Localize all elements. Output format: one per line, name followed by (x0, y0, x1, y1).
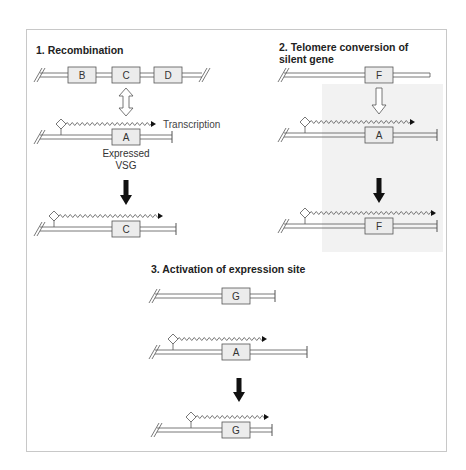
transcript-arrowhead-icon (151, 121, 156, 127)
gene-label: A (376, 130, 383, 141)
gene-label: C (122, 70, 129, 81)
gene-label: D (164, 70, 171, 81)
break-slash-icon (149, 345, 160, 359)
promoter-diamond-icon (56, 119, 66, 129)
gene-label: G (232, 425, 240, 436)
transcription-label: Transcription (163, 119, 220, 130)
transcript-wave (59, 215, 159, 218)
transcript-wave (178, 338, 263, 341)
break-slash-icon (149, 289, 160, 303)
promoter-diamond-icon (49, 211, 59, 221)
break-slash-icon (199, 68, 210, 82)
promoter-diamond-icon (168, 334, 178, 344)
gene-label: C (122, 224, 129, 235)
gene-label: F (376, 70, 382, 81)
gene-label: G (232, 291, 240, 302)
promoter-diamond-icon (300, 208, 310, 218)
down-arrow-icon (233, 392, 245, 402)
panel2-title-line2: silent gene (279, 53, 334, 65)
diagram: 1. Recombination 2. Telomere conversion … (0, 0, 466, 470)
break-slash-icon (34, 130, 45, 144)
caption-line2: VSG (115, 160, 136, 171)
down-arrow-icon (377, 178, 382, 194)
gene-label: A (123, 132, 130, 143)
transcript-arrowhead-icon (158, 213, 163, 219)
down-arrow-icon (120, 195, 132, 205)
transcript-wave (66, 123, 151, 126)
caption-line1: Expressed (102, 148, 149, 159)
break-slash-icon (278, 68, 289, 82)
panel3-title: 3. Activation of expression site (151, 263, 305, 275)
break-slash-icon (278, 128, 289, 142)
transcript-wave (196, 416, 266, 419)
panel1-title: 1. Recombination (36, 44, 124, 56)
promoter-diamond-icon (300, 117, 310, 127)
gene-label: F (376, 221, 382, 232)
down-arrow-icon (124, 180, 129, 196)
promoter-diamond-icon (186, 412, 196, 422)
panel2-title-line1: 2. Telomere conversion of (279, 41, 409, 53)
gene-label: B (79, 70, 86, 81)
transcript-arrowhead-icon (264, 414, 269, 420)
break-slash-icon (151, 423, 162, 437)
double-arrow-icon (119, 88, 133, 116)
break-slash-icon (34, 222, 45, 236)
down-arrow-icon (237, 378, 242, 393)
transcript-arrowhead-icon (262, 336, 267, 342)
break-slash-icon (34, 68, 45, 82)
break-slash-icon (278, 219, 289, 233)
gene-label: A (233, 347, 240, 358)
